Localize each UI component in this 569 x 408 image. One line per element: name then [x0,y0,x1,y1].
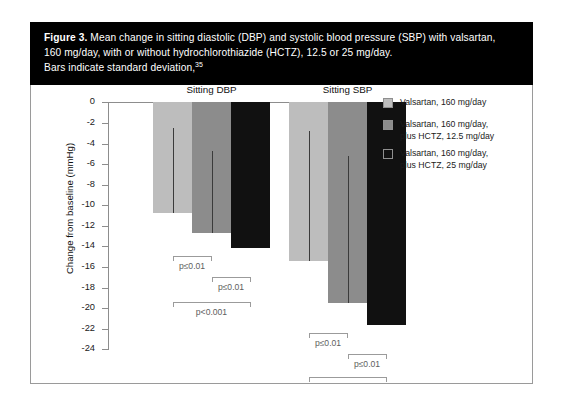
group-title-dbp: Sitting DBP [153,85,270,95]
legend-item[interactable]: Valsartan, 160 mg/day,plus HCTZ, 12.5 mg… [383,119,494,142]
y-tick-label: -16 [31,261,95,271]
bracket-line [309,333,348,334]
bracket-line [173,302,251,303]
error-bar [348,156,349,303]
figure-number: Figure 3. [44,32,87,43]
bar [231,102,270,247]
legend-item[interactable]: Valsartan, 160 mg/day,plus HCTZ, 25 mg/d… [383,148,488,171]
y-axis-line [108,102,109,350]
legend-swatch [383,98,393,108]
legend-label-line: Valsartan, 160 mg/day [400,97,486,109]
group-title-sbp: Sitting SBP [289,85,406,95]
bracket-line [309,377,387,378]
legend-label: Valsartan, 160 mg/day,plus HCTZ, 12.5 mg… [400,119,494,142]
y-tick-label: -8 [31,179,95,189]
legend-swatch [383,149,393,159]
y-tick-label: -20 [31,302,95,312]
y-tick-label: -10 [31,199,95,209]
caption-text-1: Mean change in sitting diastolic (DBP) a… [87,32,495,43]
y-tick-label: -22 [31,323,95,333]
error-bar [309,131,310,261]
p-value-label: p≤0.01 [309,338,348,348]
y-tick-label: 0 [31,96,95,106]
legend-label: Valsartan, 160 mg/day [400,97,486,109]
bracket-line [212,277,251,278]
y-tick-label: -14 [31,240,95,250]
error-bar [212,151,213,233]
y-tick-label: -6 [31,158,95,168]
p-value-label: p≤0.01 [212,282,251,292]
caption-line-1: Figure 3. Mean change in sitting diastol… [44,31,519,46]
caption-line-3: Bars indicate standard deviation,35 [44,61,519,76]
legend-label: Valsartan, 160 mg/day,plus HCTZ, 25 mg/d… [400,148,488,171]
p-value-label: p≤0.01 [348,359,387,369]
legend-swatch [383,120,393,130]
legend-label-line: Valsartan, 160 mg/day, [400,148,488,160]
bracket-line [173,256,212,257]
caption-text-3: Bars indicate standard deviation, [44,62,195,73]
y-tick-label: -2 [31,117,95,127]
y-tick-label: -12 [31,220,95,230]
legend-item[interactable]: Valsartan, 160 mg/day [383,97,486,109]
p-value-label: p<0.001 [309,382,387,384]
legend-label-line: plus HCTZ, 25 mg/day [400,160,488,172]
p-value-label: p<0.001 [173,307,251,317]
legend-label-line: Valsartan, 160 mg/day, [400,119,494,131]
caption-line-2: 160 mg/day, with or without hydrochlorot… [44,46,519,61]
bracket-line [348,354,387,355]
p-value-label: p≤0.01 [173,261,212,271]
figure-container: Figure 3. Mean change in sitting diastol… [30,22,533,385]
legend-label-line: plus HCTZ, 12.5 mg/day [400,131,494,143]
y-tick-label: -18 [31,282,95,292]
caption-reference: 35 [195,60,203,67]
y-tick-label: -4 [31,138,95,148]
chart-panel: Change from baseline (mmHg) 0-2-4-6-8-10… [30,85,533,384]
error-bar [173,128,174,212]
y-tick-label: -24 [31,343,95,353]
figure-caption: Figure 3. Mean change in sitting diastol… [30,22,533,85]
